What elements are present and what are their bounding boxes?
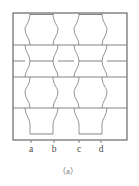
cell-wall-r3-right-b — [102, 77, 107, 108]
cell-wall-r1-right-b — [102, 13, 107, 45]
axis-label-a: a — [29, 144, 34, 154]
cell-row-4 — [25, 108, 107, 134]
axis-label-group: a b c d — [29, 144, 104, 154]
cell-row-3 — [25, 77, 107, 108]
cell-wall-r4-c — [74, 108, 79, 134]
cell-wall-r1-left-a — [25, 13, 30, 45]
cell-wall-r3-right-a — [53, 77, 58, 108]
figure-caption: （a） — [58, 167, 78, 176]
cell-wall-r2-d — [102, 45, 107, 77]
axis-label-c: c — [77, 144, 81, 154]
diagram-outer-frame — [13, 13, 127, 140]
cell-tessellation-diagram: a b c d （a） — [0, 0, 139, 186]
cell-wall-r2-a — [25, 45, 30, 77]
cell-row-2 — [13, 45, 127, 77]
cell-wall-r3-left-a — [25, 77, 30, 108]
cell-wall-r4-a — [25, 108, 30, 134]
cell-wall-r3-left-b — [74, 77, 79, 108]
axis-label-b: b — [52, 144, 57, 154]
horizontal-grid-lines — [13, 45, 127, 108]
cell-wall-r2-b — [53, 45, 58, 77]
cell-wall-r4-b — [53, 108, 58, 134]
axis-label-d: d — [99, 144, 104, 154]
cell-wall-r1-left-b — [74, 13, 79, 45]
cell-wall-r1-right-a — [53, 13, 58, 45]
figure-container: a b c d （a） — [0, 0, 139, 186]
cell-wall-r4-d — [102, 108, 107, 134]
cell-wall-r2-c — [74, 45, 79, 77]
cell-row-1 — [25, 13, 107, 45]
